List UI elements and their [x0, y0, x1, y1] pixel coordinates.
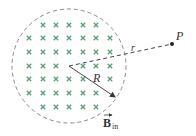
field-x-mark-icon	[81, 36, 85, 40]
point-P-dot	[170, 42, 174, 46]
field-x-mark-icon	[41, 64, 45, 68]
field-x-mark-icon	[81, 91, 85, 95]
field-x-mark-icon	[41, 91, 45, 95]
field-x-mark-icon	[54, 36, 58, 40]
field-x-mark-icon	[108, 64, 112, 68]
field-x-mark-icon	[81, 77, 85, 81]
field-x-mark-icon	[81, 50, 85, 54]
field-x-mark-icon	[81, 105, 85, 109]
field-x-mark-icon	[94, 23, 98, 27]
field-x-mark-icon	[54, 50, 58, 54]
magnetic-field-diagram: P r R B in	[0, 0, 196, 136]
label-B-in: B in	[103, 115, 118, 131]
field-x-mark-icon	[54, 64, 58, 68]
field-x-mark-icon	[67, 91, 71, 95]
label-P: P	[175, 29, 184, 43]
field-x-mark-icon	[54, 105, 58, 109]
field-x-mark-icon	[41, 50, 45, 54]
field-x-mark-icon	[41, 36, 45, 40]
radius-R-arrow	[69, 66, 115, 97]
label-r: r	[131, 42, 135, 53]
field-x-mark-icon	[81, 64, 85, 68]
field-x-mark-icon	[54, 23, 58, 27]
field-x-mark-icon	[108, 50, 112, 54]
label-B: B	[103, 116, 111, 130]
field-x-mark-icon	[41, 105, 45, 109]
field-x-mark-icon	[81, 23, 85, 27]
field-x-mark-icon	[54, 91, 58, 95]
field-x-mark-icon	[108, 77, 112, 81]
label-R: R	[92, 71, 101, 85]
field-x-mark-icon	[94, 64, 98, 68]
field-x-mark-icon	[67, 105, 71, 109]
field-x-mark-icon	[94, 50, 98, 54]
field-x-mark-icon	[27, 50, 31, 54]
field-x-mark-icon	[27, 36, 31, 40]
field-x-mark-icon	[54, 77, 58, 81]
label-B-subscript: in	[112, 122, 118, 131]
field-x-mark-icon	[94, 105, 98, 109]
field-x-mark-icon	[41, 23, 45, 27]
field-x-mark-icon	[108, 36, 112, 40]
distance-r-line	[69, 44, 172, 66]
field-x-mark-icon	[41, 77, 45, 81]
field-x-mark-icon	[27, 91, 31, 95]
field-x-mark-icon	[94, 91, 98, 95]
field-x-mark-icon	[67, 50, 71, 54]
field-x-mark-icon	[94, 36, 98, 40]
field-x-mark-icon	[27, 64, 31, 68]
field-x-mark-icon	[27, 77, 31, 81]
field-x-mark-icon	[67, 36, 71, 40]
field-x-mark-icon	[67, 77, 71, 81]
field-x-mark-icon	[67, 23, 71, 27]
